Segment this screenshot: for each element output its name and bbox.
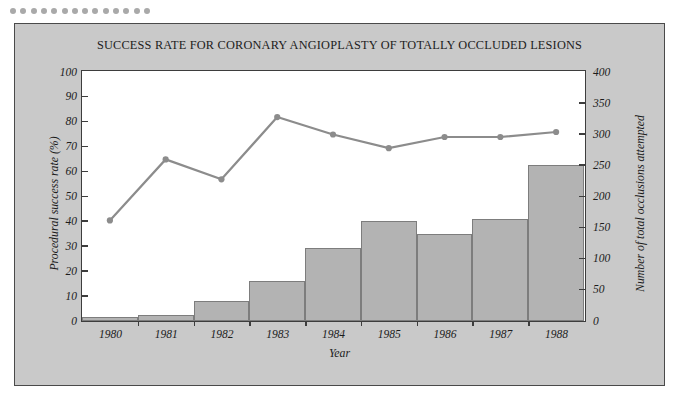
right-axis-tick-labels: 050100150200250300350400	[593, 70, 633, 322]
x-tick-label-1985: 1985	[378, 328, 401, 340]
right-tick-label: 200	[593, 190, 610, 202]
left-axis-tick	[82, 96, 88, 98]
left-axis-tick	[82, 220, 88, 222]
x-tick-label-1987: 1987	[489, 328, 512, 340]
decorative-dot	[144, 8, 150, 14]
chart-page: SUCCESS RATE FOR CORONARY ANGIOPLASTY OF…	[0, 0, 681, 403]
right-axis-tick	[579, 102, 585, 104]
data-point-1985	[386, 145, 392, 151]
success-rate-line-series	[82, 71, 584, 320]
x-tick-label-1980: 1980	[99, 328, 122, 340]
right-tick-label: 400	[593, 66, 610, 78]
right-axis-tick	[579, 164, 585, 166]
right-axis-tick	[579, 196, 585, 198]
left-axis-tick	[82, 146, 88, 148]
right-tick-label: 300	[593, 128, 610, 140]
data-point-1981	[163, 156, 169, 162]
decorative-dot	[10, 8, 16, 14]
decorative-dot	[62, 8, 68, 14]
x-axis-tick	[472, 321, 473, 326]
chart-panel: SUCCESS RATE FOR CORONARY ANGIOPLASTY OF…	[14, 23, 665, 386]
decorative-dot	[20, 8, 26, 14]
x-axis-tick-labels: 198019811982198319841985198619871988	[81, 327, 586, 345]
left-axis-tick	[82, 196, 88, 198]
left-tick-label: 100	[35, 66, 77, 78]
decorative-dot	[31, 8, 37, 14]
x-tick-label-1984: 1984	[322, 328, 345, 340]
decorative-dot	[134, 8, 140, 14]
plot-area	[81, 70, 586, 322]
right-axis-title: Number of total occlusions attempted	[633, 79, 648, 329]
left-axis-tick	[82, 270, 88, 272]
right-tick-label: 50	[593, 283, 605, 295]
data-point-1982	[218, 176, 224, 182]
decorative-dot	[123, 8, 129, 14]
data-point-1986	[441, 134, 447, 140]
left-axis-tick	[82, 295, 88, 297]
right-axis-tick	[579, 258, 585, 260]
x-axis-tick	[305, 321, 306, 326]
right-tick-label: 0	[593, 315, 599, 327]
right-tick-label: 150	[593, 221, 610, 233]
left-axis-tick	[82, 245, 88, 247]
decorative-dot	[103, 8, 109, 14]
x-tick-label-1986: 1986	[434, 328, 457, 340]
x-tick-label-1983: 1983	[266, 328, 289, 340]
data-point-1988	[553, 129, 559, 135]
x-tick-label-1988: 1988	[545, 328, 568, 340]
decorative-dot	[113, 8, 119, 14]
left-axis-tick	[82, 171, 88, 173]
x-tick-label-1982: 1982	[210, 328, 233, 340]
right-tick-label: 100	[593, 252, 610, 264]
decorative-dot-row	[10, 5, 340, 19]
x-axis-tick	[194, 321, 195, 326]
plot-inner	[82, 71, 585, 321]
left-axis-tick	[82, 121, 88, 123]
decorative-dot	[51, 8, 57, 14]
x-axis-tick	[249, 321, 250, 326]
x-axis-tick	[417, 321, 418, 326]
data-point-1984	[330, 131, 336, 137]
data-point-1980	[107, 217, 113, 223]
x-axis-tick	[361, 321, 362, 326]
x-axis-title: Year	[15, 346, 664, 361]
decorative-dot	[92, 8, 98, 14]
chart-title: SUCCESS RATE FOR CORONARY ANGIOPLASTY OF…	[15, 38, 664, 53]
decorative-dot	[41, 8, 47, 14]
left-axis-title: Procedural success rate (%)	[47, 79, 62, 329]
decorative-dot	[82, 8, 88, 14]
right-tick-label: 250	[593, 159, 610, 171]
x-axis-tick	[138, 321, 139, 326]
right-axis-tick	[579, 227, 585, 229]
data-point-1987	[497, 134, 503, 140]
x-axis-tick	[528, 321, 529, 326]
right-tick-label: 350	[593, 97, 610, 109]
right-axis-tick	[579, 133, 585, 135]
right-axis-tick	[579, 289, 585, 291]
decorative-dot	[72, 8, 78, 14]
x-tick-label-1981: 1981	[155, 328, 178, 340]
data-point-1983	[274, 114, 280, 120]
